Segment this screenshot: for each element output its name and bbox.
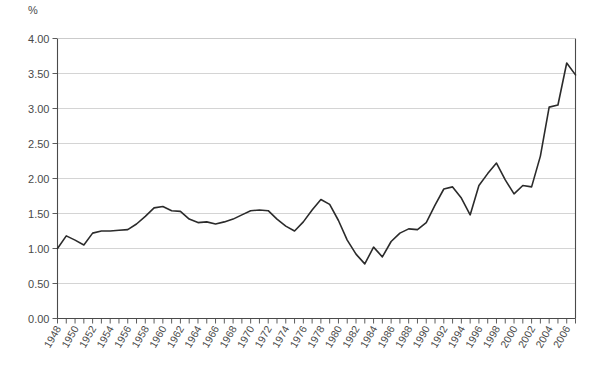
x-tick-label: 1982 [340,323,362,349]
x-tick-label: 1990 [410,323,432,349]
y-tick-label: 1.50 [28,208,49,220]
x-tick-label: 1952 [76,323,98,349]
data-series-line [58,63,576,264]
x-tick-label: 1984 [357,323,379,349]
x-tick-label: 1994 [445,323,467,349]
x-tick-label: 1962 [164,323,186,349]
x-tick-label: 2006 [550,323,572,349]
x-tick-label: 1998 [480,323,502,349]
x-tick-label: 1948 [41,323,63,349]
y-tick-label: 0.50 [28,278,49,290]
y-tick-label: 3.50 [28,68,49,80]
x-tick-label: 1988 [392,323,414,349]
x-tick-label: 1964 [182,323,204,349]
y-tick-label: 0.00 [28,313,49,325]
x-tick-label: 1966 [199,323,221,349]
x-tick-label: 1974 [269,323,291,349]
x-tick-label: 1960 [147,323,169,349]
x-tick-label: 2004 [533,323,555,349]
y-tick-label: 3.00 [28,103,49,115]
x-tick-label: 1956 [111,323,133,349]
x-tick-label: 1970 [234,323,256,349]
line-chart-plot: 0.000.501.001.502.002.503.003.504.001948… [0,0,599,377]
x-tick-label: 1950 [59,323,81,349]
x-tick-label: 2000 [498,323,520,349]
x-tick-label: 1954 [94,323,116,349]
chart-container: % 0.000.501.001.502.002.503.003.504.0019… [0,0,599,377]
x-tick-label: 1980 [322,323,344,349]
x-tick-label: 1976 [287,323,309,349]
x-tick-label: 1958 [129,323,151,349]
x-tick-label: 1996 [463,323,485,349]
x-tick-label: 1978 [305,323,327,349]
y-tick-label: 4.00 [28,33,49,45]
x-tick-label: 1986 [375,323,397,349]
y-tick-label: 1.00 [28,243,49,255]
x-tick-label: 1968 [217,323,239,349]
y-tick-label: 2.50 [28,138,49,150]
y-tick-label: 2.00 [28,173,49,185]
x-tick-label: 1992 [427,323,449,349]
x-tick-label: 1972 [252,323,274,349]
x-tick-label: 2002 [515,323,537,349]
